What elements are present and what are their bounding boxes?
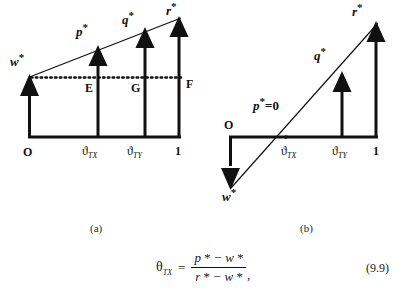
equation-numerator: p * − w *: [191, 250, 246, 267]
panel-b-label-q-star: q*: [314, 46, 326, 62]
panel-b-arrowhead-r: [367, 21, 386, 42]
panel-b-arrowhead-q: [333, 71, 352, 92]
panel-a-tick-label-theta-tx: ϑTX: [82, 145, 98, 160]
panel-b-axis-origin-label: O: [224, 119, 233, 131]
equation-fraction: p * − w * r * − w *: [191, 250, 246, 285]
panel-a-label-r-star: r*: [166, 1, 177, 17]
panel-b-zero-crossing-marker: [284, 135, 288, 139]
equation-lhs: θTX: [156, 259, 172, 277]
panel-a-tick-label-theta-ty: ϑTY: [127, 145, 142, 160]
panel-b-tick-label-theta-tx: ϑTX: [281, 145, 297, 160]
panel-b-tick-label-theta-ty: ϑTY: [332, 145, 347, 160]
panel-b-caption: (b): [300, 222, 313, 234]
panel-b-diagram: [200, 0, 413, 210]
equation-equals-sign: =: [178, 260, 185, 276]
equation-denominator: r * − w *: [192, 268, 245, 285]
figure-root: w* p* q* r* E G F O ϑTX ϑTY 1 (a) r*: [0, 0, 413, 294]
equation-expression: θTX = p * − w * r * − w * ,: [156, 250, 250, 285]
panel-a-point-label-f: F: [186, 78, 193, 90]
panel-a-label-p-star: p*: [76, 22, 88, 38]
panel-b-label-r-star: r*: [352, 2, 363, 18]
panel-a-caption: (a): [90, 222, 102, 234]
equation-row: θTX = p * − w * r * − w * , (9.9): [0, 250, 413, 294]
panel-b-axis-end-label: 1: [373, 145, 379, 157]
panel-a-axis-end-label: 1: [175, 145, 181, 157]
panel-a-label-w-star: w*: [10, 52, 24, 68]
panel-a-arrowhead-q: [136, 27, 155, 48]
panel-b-label-w-star: w*: [222, 187, 236, 203]
panel-a-axis-origin-label: O: [23, 146, 32, 158]
panel-b-label-p-star-zero: p*=0: [253, 96, 279, 112]
panel-a-label-q-star: q*: [122, 10, 134, 26]
panel-a-point-label-e: E: [85, 82, 93, 94]
panel-a-point-label-g: G: [131, 82, 140, 94]
panel-a-slope-line: [30, 18, 182, 77]
equation-number: (9.9): [366, 261, 389, 276]
equation-trailing-comma: ,: [247, 267, 250, 285]
